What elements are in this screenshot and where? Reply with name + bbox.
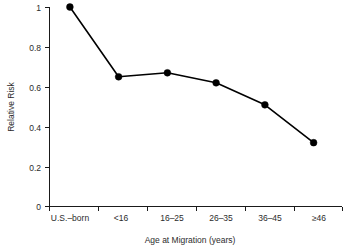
x-tick-label-under-16: <16 <box>114 213 129 223</box>
y-tick-label-0.8: 0.8 <box>29 43 41 53</box>
x-tick-label-16-25: 16–25 <box>160 213 184 223</box>
series-line-relative-risk <box>70 7 314 143</box>
line-chart-canvas: 1 0.8 0.6 0.4 0.2 0 Relative Risk U.S.–b… <box>0 0 352 252</box>
y-tick-label-0.6: 0.6 <box>29 83 41 93</box>
y-tick-label-0.2: 0.2 <box>29 163 41 173</box>
y-axis-title: Relative Risk <box>6 81 16 131</box>
x-tick-label-26-35: 26–35 <box>209 213 233 223</box>
y-tick-label-0: 0 <box>36 202 41 212</box>
data-point <box>310 139 317 146</box>
series-markers-group <box>67 4 318 147</box>
x-tick-label-us-born: U.S.–born <box>51 213 90 223</box>
x-axis-title: Age at Migration (years) <box>145 235 236 245</box>
y-tick-label-0.4: 0.4 <box>29 123 41 133</box>
data-point <box>67 4 74 11</box>
data-point <box>213 79 220 86</box>
chart-figure: 1 0.8 0.6 0.4 0.2 0 Relative Risk U.S.–b… <box>0 0 352 252</box>
x-tick-label-46-plus: ≥46 <box>312 213 326 223</box>
x-tick-label-36-45: 36–45 <box>258 213 282 223</box>
data-point <box>115 73 122 80</box>
data-point <box>164 69 171 76</box>
y-tick-label-1: 1 <box>36 3 41 13</box>
data-point <box>262 101 269 108</box>
